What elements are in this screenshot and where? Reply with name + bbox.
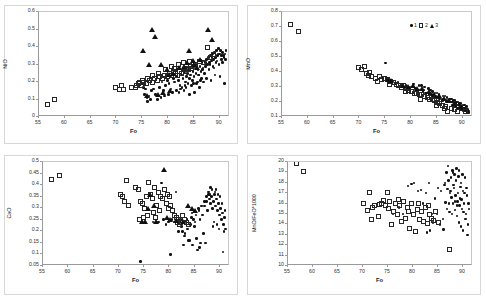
data-point-series-1 [464,218,467,221]
data-point-series-2 [126,203,131,208]
x-tick-label: 65 [334,269,340,274]
data-point-series-1 [456,215,459,218]
y-tick-label: 19 [266,169,284,174]
y-axis-label: NiO [3,59,8,68]
data-point-series-1 [216,209,219,212]
data-point-series-1 [461,208,464,211]
x-axis-label: Fo [132,278,139,284]
data-point-series-1 [198,86,201,89]
data-point-series-2 [433,209,438,214]
x-tick-label: 55 [284,269,290,274]
data-point-series-1 [197,74,200,77]
data-point-series-1 [183,89,186,92]
data-point-series-3 [388,78,394,83]
data-point-series-2 [455,109,460,114]
plot-nio: 00.10.20.30.40.50.65560657075808590NiOFo [0,0,243,150]
data-point-series-3 [180,219,186,224]
data-point-series-1 [173,81,176,84]
data-point-series-1 [214,74,217,77]
data-point-series-2 [165,192,170,197]
data-point-series-2 [294,161,299,166]
data-point-series-1 [460,225,463,228]
x-tick-label: 65 [90,269,96,274]
panel-cao: 0.050.10.150.20.250.30.350.40.450.555606… [0,150,243,301]
panel-mno: 0.10.20.30.40.50.60.70.85560657075808590… [243,0,486,150]
data-point-series-1 [186,228,189,231]
data-point-series-2 [150,73,155,78]
data-point-series-1 [216,223,219,226]
data-point-series-1 [191,244,194,247]
data-point-series-1 [193,75,196,78]
x-tick-label: 90 [216,269,222,274]
data-point-series-1 [209,202,212,205]
data-point-series-3 [205,27,211,32]
x-axis-label: Fo [376,278,383,284]
data-point-series-1 [454,194,457,197]
data-point-series-2 [418,97,423,102]
data-point-series-1 [209,63,212,66]
data-point-series-1 [468,208,471,211]
y-tick-mark [285,244,287,245]
data-point-series-1 [443,184,446,187]
y-tick-mark [285,255,287,256]
data-point-series-1 [222,251,225,254]
y-tick-mark [285,203,287,204]
data-point-series-1 [158,86,161,89]
data-point-series-3 [167,88,173,93]
data-point-series-1 [451,213,454,216]
data-point-series-1 [425,192,428,195]
data-point-series-1 [187,239,190,242]
panel-nio: 00.10.20.30.40.50.65560657075808590NiOFo [0,0,243,150]
legend-item-3: 3 [430,23,438,28]
y-tick-label: 0.35 [21,193,39,198]
x-tick-mark [141,116,142,118]
plot-mno-feo-ratio: 10111213141516171819205560657075808590Mn… [243,150,486,301]
data-point-series-1 [448,202,451,205]
data-point-series-1 [194,221,197,224]
data-point-series-2 [376,214,381,219]
data-point-series-2 [49,177,54,182]
panel-mno-feo-ratio: 10111213141516171819205560657075808590Mn… [243,150,486,301]
x-tick-mark [287,265,288,267]
data-point-series-1 [417,190,420,193]
y-tick-label: 0.6 [17,8,35,13]
x-tick-mark [384,116,385,118]
data-point-series-3 [153,219,159,224]
data-point-series-3 [144,93,150,98]
data-point-series-1 [464,176,467,179]
data-point-series-3 [139,219,145,224]
x-tick-label: 80 [164,120,170,125]
y-tick-mark [40,242,42,243]
x-tick-label: 80 [409,269,415,274]
y-tick-mark [40,196,42,197]
data-point-series-1 [208,198,211,201]
data-point-series-1 [458,204,461,207]
y-tick-mark [285,192,287,193]
data-point-series-1 [445,171,448,174]
y-tick-mark [36,64,38,65]
data-point-series-3 [173,218,179,223]
y-tick-label: 0.3 [260,83,278,88]
y-tick-mark [285,182,287,183]
data-point-series-1 [223,82,226,85]
x-tick-label: 60 [309,269,315,274]
x-tick-mark [281,116,282,118]
data-point-series-1 [454,209,457,212]
y-tick-label: 0.2 [21,228,39,233]
y-axis-label: MnO [246,58,251,70]
x-tick-mark [219,265,220,267]
y-tick-mark [279,56,281,57]
x-tick-mark [410,116,411,118]
legend-item-2: 2 [419,23,428,28]
data-point-series-1 [177,79,180,82]
data-point-series-2 [124,178,129,183]
x-tick-label: 75 [381,120,387,125]
data-point-series-3 [186,48,192,53]
data-point-series-1 [455,167,458,170]
data-point-series-1 [452,184,455,187]
x-tick-mark [167,116,168,118]
data-point-series-2 [296,29,301,34]
data-point-series-3 [146,62,152,67]
y-tick-label: 20 [266,158,284,163]
x-tick-mark [168,265,169,267]
